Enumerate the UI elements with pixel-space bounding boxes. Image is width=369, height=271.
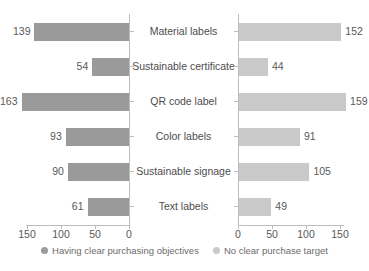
left-axis-tick-label: 50 xyxy=(89,229,101,240)
right-bar xyxy=(238,93,346,111)
right-bar xyxy=(238,198,271,216)
chart-row: 54Sustainable certificate44 xyxy=(0,49,369,84)
left-spine-tick xyxy=(130,171,134,172)
left-bar xyxy=(92,58,129,76)
diverging-bar-chart: 139Material labels15254Sustainable certi… xyxy=(0,0,369,271)
right-spine-tick xyxy=(234,136,238,137)
right-bar xyxy=(238,163,309,181)
right-axis-tick-label: 150 xyxy=(331,229,349,240)
left-axis-line xyxy=(26,225,130,226)
right-bar-value-label: 152 xyxy=(345,26,363,37)
chart-row: 61Text labels49 xyxy=(0,189,369,224)
legend-label: No clear purchase target xyxy=(224,245,328,256)
right-bar xyxy=(238,23,341,41)
right-series-cell: 152 xyxy=(238,14,369,49)
left-bar xyxy=(68,163,129,181)
chart-legend: Having clear purchasing objectivesNo cle… xyxy=(0,245,369,256)
left-spine-tick xyxy=(130,101,134,102)
left-bar-value-label: 61 xyxy=(72,201,84,212)
left-bar-wrap: 163 xyxy=(0,93,129,111)
right-series-cell: 49 xyxy=(238,189,369,224)
right-bar-value-label: 159 xyxy=(350,96,368,107)
right-axis-line xyxy=(238,225,344,226)
right-spine-tick xyxy=(234,31,238,32)
right-spine-tick xyxy=(234,171,238,172)
left-series-cell: 163 xyxy=(0,84,129,119)
left-spine-tick xyxy=(130,31,134,32)
legend-item[interactable]: No clear purchase target xyxy=(213,245,328,256)
chart-row: 163QR code label159 xyxy=(0,84,369,119)
left-series-cell: 93 xyxy=(0,119,129,154)
category-label: Material labels xyxy=(129,14,238,49)
right-bar-wrap: 44 xyxy=(238,58,369,76)
left-spine-tick xyxy=(130,206,134,207)
right-spine-tick xyxy=(234,101,238,102)
category-label: Sustainable certificate xyxy=(129,49,238,84)
category-label: Text labels xyxy=(129,189,238,224)
legend-item[interactable]: Having clear purchasing objectives xyxy=(41,245,199,256)
right-bar xyxy=(238,128,300,146)
left-bar-value-label: 139 xyxy=(13,26,31,37)
left-axis-tick-label: 0 xyxy=(126,229,132,240)
left-axis-spine xyxy=(129,14,130,225)
legend-swatch-icon xyxy=(213,247,220,254)
right-series-cell: 91 xyxy=(238,119,369,154)
right-bar-value-label: 49 xyxy=(275,201,287,212)
category-label: QR code label xyxy=(129,84,238,119)
right-axis-tick-label: 100 xyxy=(297,229,315,240)
category-label: Color labels xyxy=(129,119,238,154)
left-axis-tick-label: 100 xyxy=(52,229,70,240)
chart-row: 90Sustainable signage105 xyxy=(0,154,369,189)
left-series-cell: 90 xyxy=(0,154,129,189)
left-bar-value-label: 90 xyxy=(52,166,64,177)
left-series-cell: 61 xyxy=(0,189,129,224)
right-bar-wrap: 49 xyxy=(238,198,369,216)
left-bar-wrap: 61 xyxy=(0,198,129,216)
right-bar-wrap: 105 xyxy=(238,163,369,181)
left-bar-wrap: 54 xyxy=(0,58,129,76)
left-spine-tick xyxy=(130,136,134,137)
chart-row: 93Color labels91 xyxy=(0,119,369,154)
right-bar-value-label: 105 xyxy=(313,166,331,177)
right-bar xyxy=(238,58,268,76)
right-spine-tick xyxy=(234,66,238,67)
left-bar xyxy=(34,23,129,41)
left-bar-value-label: 93 xyxy=(50,131,62,142)
left-axis-tick-label: 150 xyxy=(18,229,36,240)
left-bar xyxy=(88,198,129,216)
left-bar-wrap: 93 xyxy=(0,128,129,146)
legend-label: Having clear purchasing objectives xyxy=(52,245,199,256)
right-axis-tick-label: 50 xyxy=(266,229,278,240)
left-bar-value-label: 163 xyxy=(0,96,18,107)
right-series-cell: 105 xyxy=(238,154,369,189)
left-series-cell: 139 xyxy=(0,14,129,49)
chart-row: 139Material labels152 xyxy=(0,14,369,49)
right-bar-wrap: 159 xyxy=(238,93,369,111)
right-bar-wrap: 152 xyxy=(238,23,369,41)
right-bar-value-label: 44 xyxy=(272,61,284,72)
left-spine-tick xyxy=(130,66,134,67)
left-bar xyxy=(22,93,129,111)
left-series-cell: 54 xyxy=(0,49,129,84)
left-bar xyxy=(66,128,129,146)
right-series-cell: 44 xyxy=(238,49,369,84)
left-bar-wrap: 90 xyxy=(0,163,129,181)
right-axis-tick-label: 0 xyxy=(235,229,241,240)
right-series-cell: 159 xyxy=(238,84,369,119)
legend-swatch-icon xyxy=(41,247,48,254)
right-spine-tick xyxy=(234,206,238,207)
chart-plot-area: 139Material labels15254Sustainable certi… xyxy=(0,14,369,224)
right-axis-spine xyxy=(238,14,239,225)
category-label: Sustainable signage xyxy=(129,154,238,189)
left-bar-value-label: 54 xyxy=(77,61,89,72)
left-bar-wrap: 139 xyxy=(0,23,129,41)
right-bar-wrap: 91 xyxy=(238,128,369,146)
right-bar-value-label: 91 xyxy=(304,131,316,142)
